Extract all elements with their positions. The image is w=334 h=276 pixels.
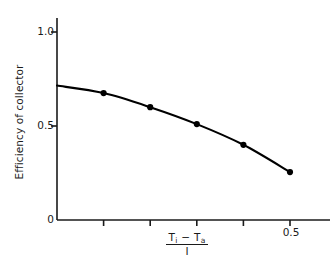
data-curve (57, 86, 290, 172)
data-point-markers (101, 90, 294, 175)
x-tick-marks (104, 220, 290, 226)
y-tick-marks (51, 32, 57, 126)
axes-group (57, 18, 330, 220)
data-point-marker (287, 169, 293, 175)
plot-area (0, 0, 334, 276)
data-point-marker (240, 142, 246, 148)
data-point-marker (194, 121, 200, 127)
chart-figure: Efficiency of collector 1.0 0.5 0 0.5 Ti… (0, 0, 334, 276)
data-point-marker (101, 90, 107, 96)
data-point-marker (147, 104, 153, 110)
